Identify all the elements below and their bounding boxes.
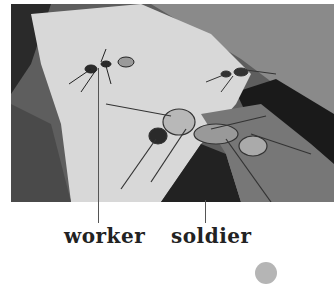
worker-leader-line [98,68,99,223]
worker-label: worker [64,224,145,248]
ant-photo [11,4,334,202]
gray-circle-decoration [255,262,277,284]
soldier-label: soldier [171,224,252,248]
soldier-leader-line [205,200,206,223]
